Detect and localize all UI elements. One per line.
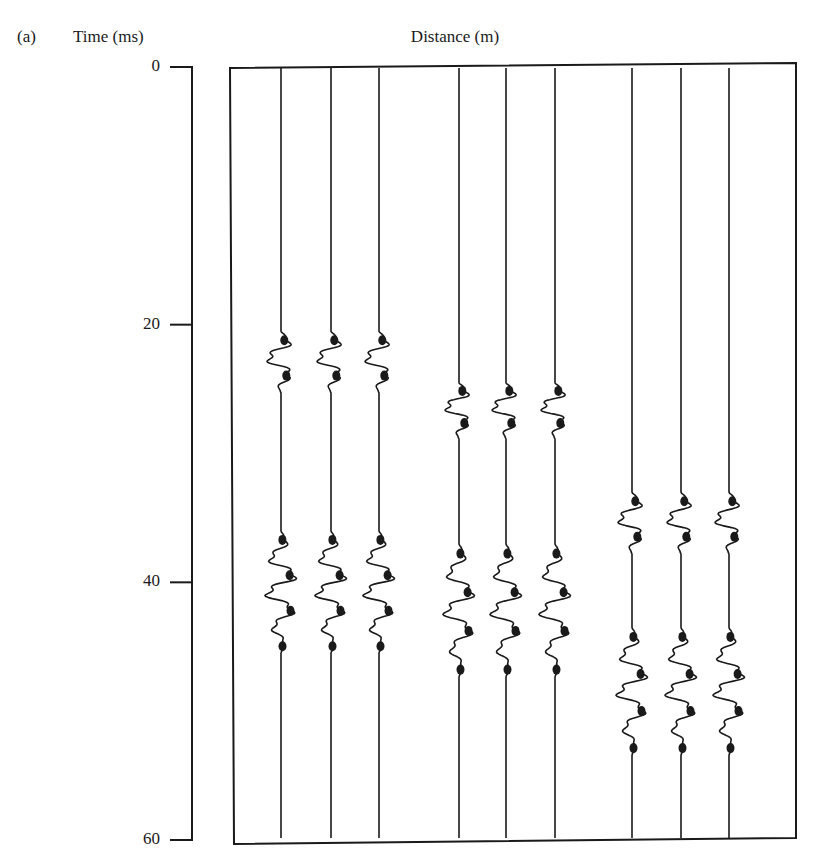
peak-fill (385, 606, 393, 616)
peak-fill (687, 706, 695, 716)
peak-fill (561, 626, 569, 636)
peak-fill (380, 371, 388, 381)
peak-fill (633, 532, 641, 542)
wiggle-traces (265, 68, 745, 838)
peak-fill (682, 532, 690, 542)
peak-fill (686, 669, 694, 679)
peak-fill (503, 549, 511, 559)
trace-line (713, 68, 745, 838)
peak-fill (337, 606, 345, 616)
peak-fill (512, 626, 520, 636)
peak-fill (332, 371, 340, 381)
trace-4 (443, 68, 475, 838)
peak-fill (456, 549, 464, 559)
trace-8 (665, 68, 697, 838)
peak-fill (384, 570, 392, 580)
trace-1 (265, 68, 297, 838)
peak-fill (328, 535, 336, 545)
peak-fill (378, 335, 386, 345)
peak-fill (280, 335, 288, 345)
trace-line (443, 68, 475, 838)
peak-fill (629, 632, 637, 642)
trace-5 (490, 68, 522, 838)
peak-fill (329, 641, 337, 651)
peak-fill (560, 587, 568, 597)
trace-line (490, 68, 522, 838)
peak-fill (464, 587, 472, 597)
peak-fill (511, 587, 519, 597)
peak-fill (735, 706, 743, 716)
peak-fill (679, 743, 687, 753)
trace-2 (315, 68, 347, 838)
peak-fill (678, 632, 686, 642)
peak-fill (457, 665, 465, 675)
peak-fill (638, 706, 646, 716)
peak-fill (460, 418, 468, 428)
trace-6 (539, 68, 571, 838)
peak-fill (279, 641, 287, 651)
peak-fill (330, 335, 338, 345)
peak-fill (504, 665, 512, 675)
peak-fill (377, 641, 385, 651)
trace-line (315, 68, 347, 838)
peak-fill (554, 386, 562, 396)
peak-fill (630, 743, 638, 753)
peak-fill (730, 532, 738, 542)
peak-fill (556, 418, 564, 428)
peak-fill (637, 669, 645, 679)
frame-border (230, 63, 796, 844)
trace-frame (230, 63, 796, 844)
peak-fill (552, 549, 560, 559)
peak-fill (505, 386, 513, 396)
peak-fill (286, 570, 294, 580)
trace-9 (713, 68, 745, 838)
peak-fill (336, 570, 344, 580)
trace-line (539, 68, 571, 838)
trace-line (363, 68, 395, 838)
peak-fill (726, 632, 734, 642)
peak-fill (287, 606, 295, 616)
peak-fill (507, 418, 515, 428)
peak-fill (278, 535, 286, 545)
peak-fill (728, 496, 736, 506)
peak-fill (458, 386, 466, 396)
peak-fill (680, 496, 688, 506)
trace-line (616, 68, 648, 838)
trace-3 (363, 68, 395, 838)
peak-fill (465, 626, 473, 636)
trace-line (265, 68, 297, 838)
trace-7 (616, 68, 648, 838)
seismic-plot (0, 0, 813, 867)
peak-fill (734, 669, 742, 679)
peak-fill (376, 535, 384, 545)
peak-fill (553, 665, 561, 675)
peak-fill (631, 496, 639, 506)
peak-fill (727, 743, 735, 753)
trace-line (665, 68, 697, 838)
time-axis (170, 67, 193, 840)
peak-fill (282, 371, 290, 381)
